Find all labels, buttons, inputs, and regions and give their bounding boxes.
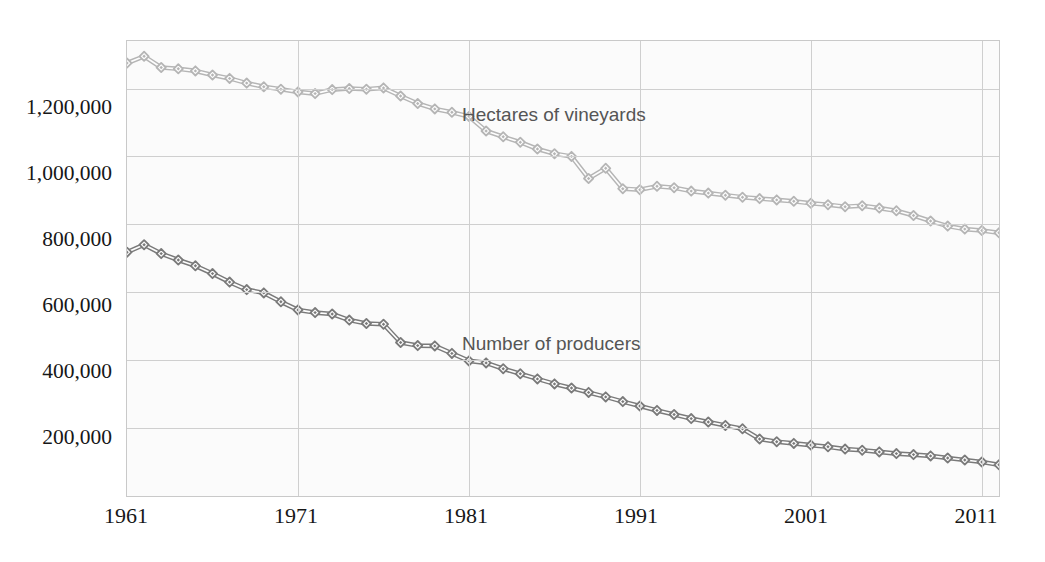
y-tick-label: 800,000 xyxy=(0,227,112,252)
y-tick-label: 1,000,000 xyxy=(0,161,112,186)
x-tick-label: 1961 xyxy=(104,503,148,529)
gridline-horizontal xyxy=(127,156,999,157)
gridline-horizontal xyxy=(127,360,999,361)
y-tick-label: 200,000 xyxy=(0,425,112,450)
gridline-horizontal xyxy=(127,224,999,225)
x-tick-label: 1971 xyxy=(274,503,318,529)
series-label-hectares: Hectares of vineyards xyxy=(462,104,646,126)
x-tick-label: 1981 xyxy=(444,503,488,529)
line-chart: 1,200,000 1,000,000 800,000 600,000 400,… xyxy=(0,0,1045,562)
series-hectares xyxy=(127,52,999,238)
gridline-horizontal xyxy=(127,89,999,90)
gridline-horizontal xyxy=(127,292,999,293)
gridline-horizontal xyxy=(127,428,999,429)
y-tick-label: 600,000 xyxy=(0,293,112,318)
gridline-vertical xyxy=(982,41,983,496)
gridline-vertical xyxy=(811,41,812,496)
gridline-vertical xyxy=(298,41,299,496)
x-tick-label: 2011 xyxy=(954,503,997,529)
x-tick-label: 1991 xyxy=(614,503,658,529)
x-tick-label: 2001 xyxy=(784,503,828,529)
y-tick-label: 400,000 xyxy=(0,359,112,384)
series-label-producers: Number of producers xyxy=(462,333,640,355)
series-line-inner xyxy=(127,56,999,233)
y-tick-label: 1,200,000 xyxy=(0,95,112,120)
